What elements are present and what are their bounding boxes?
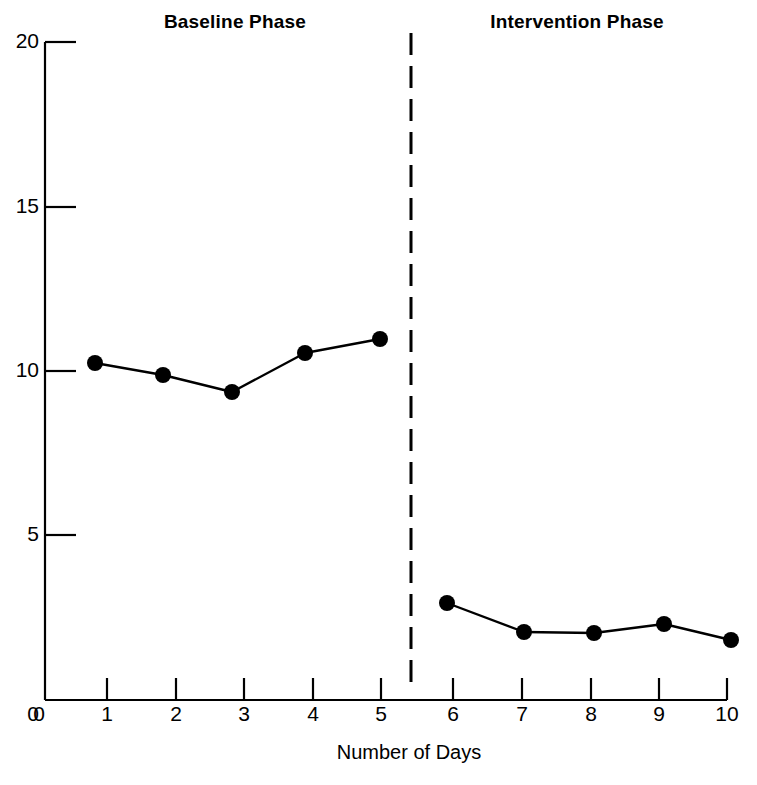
plot-area [0,0,757,785]
x-axis-title: Number of Days [179,741,639,764]
x-tick-label-5: 5 [361,702,401,726]
y-tick-label-5: 5 [0,522,39,546]
x-tick-label-4: 4 [293,702,333,726]
baseline-series-markers [87,331,388,400]
baseline-series-line [95,339,380,392]
y-tick-label-20: 20 [0,29,39,53]
x-tick-label-1: 1 [87,702,127,726]
x-tick-label-3: 3 [224,702,264,726]
x-tick-label-6: 6 [433,702,473,726]
x-tick-label-7: 7 [502,702,542,726]
single-subject-line-chart: Baseline Phase Intervention Phase [0,0,757,785]
x-tick-label-2: 2 [156,702,196,726]
x-tick-label-10: 10 [707,702,747,726]
y-tick-label-15: 15 [0,194,39,218]
intervention-series-markers [439,595,739,648]
x-tick-label-0: 0 [19,702,59,726]
x-tick-label-8: 8 [571,702,611,726]
y-tick-label-10: 10 [0,358,39,382]
y-axis-ticks [45,42,76,535]
x-tick-label-9: 9 [639,702,679,726]
x-axis-ticks [107,678,727,700]
